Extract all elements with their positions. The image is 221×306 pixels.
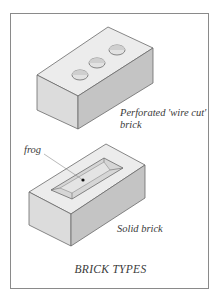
perforation-hole-icon [72, 70, 88, 80]
perforated-brick-label-line1: Perforated 'wire cut' [120, 107, 206, 118]
frog-pointer-dot [81, 178, 84, 181]
perforated-brick-label-line2: brick [120, 119, 142, 130]
perforation-hole-icon [89, 58, 105, 68]
solid-brick-label: Solid brick [117, 223, 163, 234]
perforation-hole-icon [109, 45, 125, 55]
frog-label: frog [24, 144, 41, 155]
figure-caption: BRICK TYPES [0, 263, 221, 275]
